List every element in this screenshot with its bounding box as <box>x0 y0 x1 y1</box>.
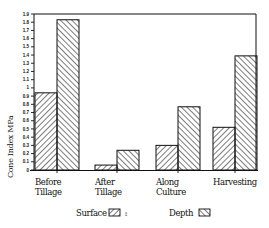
bar-surface <box>156 145 178 170</box>
y-tick-label: 0.1 <box>23 159 30 164</box>
y-tick-label: 1.8 <box>23 20 30 25</box>
y-tick-label: 1.9 <box>23 12 30 17</box>
x-category-label: Harvesting <box>213 177 258 187</box>
y-tick-label: 1.1 <box>23 77 30 82</box>
bar-depth <box>117 150 139 170</box>
y-axis-title: Cone Index MPa <box>6 115 15 178</box>
legend-label-depth: Depth <box>169 208 194 218</box>
legend-label-surface: Surface <box>76 208 107 218</box>
x-category-label: Before <box>35 177 62 187</box>
legend: Surface ↕ Depth <box>76 208 210 218</box>
y-tick-label: 1.5 <box>23 44 30 49</box>
x-category-label: Tillage <box>95 187 122 197</box>
bar-chart: 00.10.20.30.40.50.60.70.80.911.11.21.31.… <box>0 0 269 228</box>
y-tick-label: 1 <box>26 85 29 90</box>
y-tick-label: 0.6 <box>23 118 30 123</box>
x-category-label: After <box>94 177 116 187</box>
y-tick-label: 1.4 <box>23 53 30 58</box>
x-category-label: Along <box>155 177 180 187</box>
bar-depth <box>57 20 79 170</box>
legend-marker-surface: ↕ <box>124 211 128 217</box>
y-tick-label: 1.7 <box>23 28 30 33</box>
y-tick-label: 0.5 <box>23 127 30 132</box>
x-category-label: Tillage <box>35 187 62 197</box>
y-tick-label: 0.8 <box>23 102 30 107</box>
y-tick-label: 0.3 <box>23 143 30 148</box>
y-tick-label: 0.4 <box>23 135 30 140</box>
y-tick-label: 0.9 <box>23 94 30 99</box>
x-category-label: Culture <box>156 187 186 197</box>
bar-surface <box>35 93 57 170</box>
legend-swatch-surface <box>109 209 120 216</box>
legend-swatch-depth <box>199 209 210 216</box>
bar-surface <box>213 127 235 170</box>
bars-group <box>35 20 257 170</box>
y-tick-label: 1.6 <box>23 36 30 41</box>
y-tick-label: 0.7 <box>23 110 30 115</box>
y-tick-label: 1.2 <box>23 69 30 74</box>
y-tick-label: 0.2 <box>23 151 30 156</box>
y-tick-label: 0 <box>26 168 29 173</box>
x-axis-labels: BeforeTillageAfterTillageAlongCultureHar… <box>35 177 258 197</box>
bar-surface <box>95 165 117 170</box>
bar-depth <box>178 107 200 170</box>
bar-depth <box>235 56 257 170</box>
y-tick-label: 1.3 <box>23 61 30 66</box>
y-axis-ticks: 00.10.20.30.40.50.60.70.80.911.11.21.31.… <box>23 12 34 173</box>
